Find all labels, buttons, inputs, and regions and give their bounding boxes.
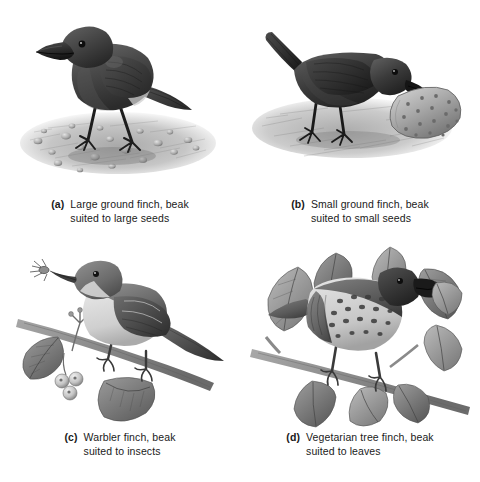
warbler-finch-illustration bbox=[0, 241, 240, 429]
panel-d: (d) Vegetarian tree finch, beak suited t… bbox=[240, 241, 480, 482]
leaf bbox=[424, 325, 462, 371]
large-ground-finch-illustration bbox=[0, 0, 240, 196]
caption-text-b: Small ground finch, beak suited to small… bbox=[311, 198, 429, 225]
panel-a: (a) Large ground finch, beak suited to l… bbox=[0, 0, 240, 241]
caption-label-c: (c) bbox=[64, 431, 77, 445]
vegetarian-tree-finch-illustration bbox=[240, 241, 480, 429]
panel-grid: (a) Large ground finch, beak suited to l… bbox=[0, 0, 480, 482]
caption-b: (b) Small ground finch, beak suited to s… bbox=[240, 196, 480, 225]
caption-text-d: Vegetarian tree finch, beak suited to le… bbox=[306, 431, 434, 458]
eye bbox=[397, 278, 403, 284]
branch-stem bbox=[390, 345, 418, 367]
bird-shadow bbox=[68, 147, 156, 165]
leaf bbox=[294, 381, 336, 427]
caption-label-a: (a) bbox=[51, 198, 64, 212]
caption-text-a: Large ground finch, beak suited to large… bbox=[70, 198, 189, 225]
branch-stem bbox=[266, 337, 280, 353]
caption-c: (c) Warbler finch, beak suited to insect… bbox=[0, 429, 240, 458]
caption-label-b: (b) bbox=[291, 198, 305, 212]
caption-a: (a) Large ground finch, beak suited to l… bbox=[0, 196, 240, 225]
panel-c: (c) Warbler finch, beak suited to insect… bbox=[0, 241, 240, 482]
eye bbox=[392, 69, 398, 75]
leaf bbox=[23, 337, 64, 379]
leaf bbox=[268, 267, 313, 331]
eye bbox=[79, 41, 86, 48]
insect bbox=[30, 259, 49, 281]
caption-text-c: Warbler finch, beak suited to insects bbox=[84, 431, 176, 458]
darwin-finches-figure: (a) Large ground finch, beak suited to l… bbox=[0, 0, 480, 482]
leaf bbox=[394, 384, 430, 423]
small-ground-finch-illustration bbox=[240, 0, 480, 196]
panel-b: (b) Small ground finch, beak suited to s… bbox=[240, 0, 480, 241]
caption-label-d: (d) bbox=[286, 431, 300, 445]
eye bbox=[93, 271, 99, 277]
caption-d: (d) Vegetarian tree finch, beak suited t… bbox=[240, 429, 480, 458]
leaf bbox=[349, 387, 388, 426]
leaf bbox=[98, 377, 155, 421]
